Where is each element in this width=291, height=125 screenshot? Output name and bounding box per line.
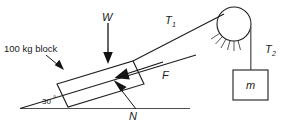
physics-diagram: 30 ° (0, 0, 291, 125)
angle-label-value: 30 (42, 97, 51, 106)
normal-force-arrow (114, 80, 137, 109)
pulley-wheel (217, 7, 251, 41)
pulley-support-hatching (211, 34, 241, 52)
hanging-mass-label: m (246, 79, 255, 91)
angle-label-unit: ° (53, 94, 56, 103)
normal-force-label: N (129, 110, 137, 122)
block-mass-label: 100 kg block (4, 43, 58, 54)
inclined-plane-diagram-canvas: 30 ° (0, 0, 291, 125)
weight-arrow (103, 23, 113, 64)
rope-incline-segment (133, 14, 224, 61)
tension-hanging-subscript: 2 (271, 50, 276, 57)
friction-label: F (162, 69, 170, 81)
weight-label: W (102, 11, 114, 23)
tension-incline-subscript: 1 (172, 21, 176, 28)
block-label-pointer-arrow (46, 55, 64, 70)
